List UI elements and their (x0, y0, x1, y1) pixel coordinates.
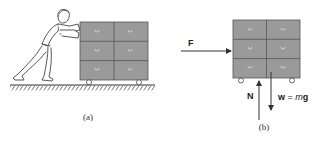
ground-icon (10, 85, 155, 91)
cabinet-icon (233, 20, 300, 83)
force-label-w: w = mg (277, 92, 308, 102)
force-label-n: N (247, 91, 254, 101)
wheel-icon (137, 80, 142, 85)
cabinet-icon (80, 22, 148, 85)
wheel-icon (290, 78, 295, 83)
panel-b: F N w = mg (b) (181, 20, 308, 132)
panel-a: (a) (10, 9, 155, 122)
wheel-icon (87, 80, 92, 85)
caption-b: (b) (259, 122, 270, 132)
person-pushing-icon (13, 9, 80, 81)
free-body-diagram: (a) F N w = mg (b) (0, 0, 315, 141)
wheel-icon (239, 78, 244, 83)
caption-a: (a) (83, 112, 93, 122)
force-label-f: F (188, 38, 194, 48)
